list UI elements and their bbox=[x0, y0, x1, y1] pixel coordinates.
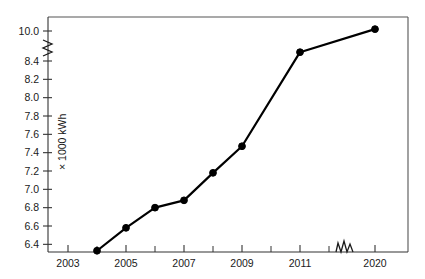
data-point bbox=[181, 197, 188, 204]
data-point bbox=[123, 224, 130, 231]
data-point bbox=[152, 204, 159, 211]
data-point bbox=[297, 49, 304, 56]
y-tick-label: 6.4 bbox=[24, 238, 39, 250]
y-tick-label: 7.0 bbox=[24, 183, 39, 195]
y-axis-title: × 1000 kWh bbox=[56, 114, 68, 170]
x-tick-label: 2007 bbox=[172, 257, 196, 269]
y-tick-label: 7.6 bbox=[24, 128, 39, 140]
line-chart: 6.46.66.87.07.27.47.67.88.08.28.410.0 20… bbox=[0, 0, 425, 279]
data-point bbox=[239, 143, 246, 150]
y-tick-label: 10.0 bbox=[19, 25, 40, 37]
y-tick-label: 6.6 bbox=[24, 220, 39, 232]
y-tick-label: 7.4 bbox=[24, 146, 39, 158]
data-point bbox=[94, 247, 101, 254]
y-tick-label: 8.0 bbox=[24, 91, 39, 103]
data-point bbox=[210, 169, 217, 176]
y-tick-label: 6.8 bbox=[24, 201, 39, 213]
y-tick-label: 8.2 bbox=[24, 73, 39, 85]
y-tick-label: 7.8 bbox=[24, 110, 39, 122]
x-tick-label: 2011 bbox=[289, 257, 312, 269]
x-tick-label: 2003 bbox=[56, 257, 80, 269]
x-tick-label: 2020 bbox=[363, 257, 387, 269]
data-point bbox=[372, 26, 379, 33]
y-tick-label: 7.2 bbox=[24, 165, 39, 177]
x-tick-label: 2009 bbox=[230, 257, 254, 269]
x-tick-label: 2005 bbox=[114, 257, 138, 269]
chart-canvas: 6.46.66.87.07.27.47.67.88.08.28.410.0 20… bbox=[0, 0, 425, 279]
y-tick-label: 8.4 bbox=[24, 55, 39, 67]
